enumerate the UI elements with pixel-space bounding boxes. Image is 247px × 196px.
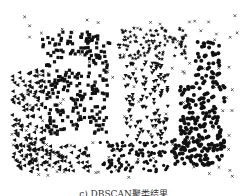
data-point	[118, 56, 122, 60]
data-point	[150, 119, 154, 123]
data-point	[69, 35, 72, 38]
data-point	[145, 96, 149, 100]
data-point	[56, 133, 59, 136]
data-point	[28, 36, 31, 39]
data-point	[138, 53, 142, 57]
data-point	[97, 128, 100, 131]
data-point	[51, 88, 54, 91]
data-point	[207, 45, 211, 49]
data-point	[106, 167, 109, 170]
data-point	[62, 111, 65, 114]
data-point	[103, 55, 106, 58]
series-cluster-top-stars	[116, 26, 188, 61]
data-point	[126, 44, 130, 48]
data-point	[45, 97, 48, 100]
data-point	[159, 142, 162, 145]
data-point	[141, 154, 144, 157]
data-point	[75, 127, 78, 130]
data-point	[102, 44, 105, 47]
data-point	[75, 156, 79, 160]
data-point	[207, 114, 211, 118]
data-point	[102, 123, 105, 126]
data-point	[190, 154, 194, 158]
data-point	[98, 74, 101, 77]
data-point	[210, 142, 214, 146]
data-point	[89, 120, 92, 123]
data-point	[47, 163, 51, 167]
data-point	[10, 78, 14, 82]
data-point	[125, 160, 128, 163]
data-point	[40, 155, 44, 159]
data-point	[180, 157, 184, 161]
data-point	[207, 21, 210, 24]
data-point	[222, 99, 226, 103]
data-point	[33, 137, 37, 141]
data-point	[125, 65, 129, 69]
data-point	[60, 37, 63, 40]
data-point	[102, 119, 105, 122]
data-point	[13, 81, 17, 85]
data-point	[75, 106, 78, 109]
data-point	[66, 115, 69, 118]
data-point	[48, 130, 51, 133]
data-point	[152, 102, 156, 106]
data-point	[211, 161, 215, 165]
data-point	[215, 73, 219, 77]
data-point	[125, 166, 128, 169]
data-point	[19, 154, 23, 158]
data-point	[128, 30, 132, 34]
data-point	[47, 126, 50, 129]
data-point	[217, 59, 221, 63]
data-point	[48, 144, 52, 148]
data-point	[80, 75, 83, 78]
data-point	[71, 169, 75, 173]
data-point	[191, 99, 195, 103]
data-point	[95, 89, 98, 92]
data-point	[203, 157, 207, 161]
data-point	[48, 119, 51, 122]
data-point	[67, 161, 71, 165]
data-point	[202, 163, 206, 167]
scatter-plot	[0, 0, 247, 186]
data-point	[137, 100, 140, 103]
data-point	[93, 117, 96, 120]
data-point	[98, 117, 101, 120]
data-point	[96, 37, 99, 40]
data-point	[49, 116, 52, 119]
data-point	[187, 131, 191, 135]
data-point	[158, 41, 162, 45]
data-point	[86, 41, 89, 44]
data-point	[211, 76, 215, 80]
data-point	[85, 160, 89, 164]
data-point	[63, 171, 66, 174]
data-point	[59, 102, 62, 105]
data-point	[128, 40, 132, 44]
data-point	[105, 66, 108, 69]
data-point	[215, 143, 219, 147]
data-point	[72, 144, 76, 148]
data-point	[68, 40, 71, 43]
data-point	[211, 149, 215, 153]
data-point	[54, 103, 57, 106]
data-point	[101, 61, 104, 64]
data-point	[142, 36, 146, 40]
data-point	[158, 94, 162, 98]
data-point	[125, 122, 129, 126]
data-point	[218, 131, 222, 135]
data-point	[188, 111, 192, 115]
data-point	[210, 95, 214, 99]
data-point	[52, 119, 55, 122]
data-point	[23, 16, 26, 19]
data-point	[69, 164, 73, 168]
data-point	[35, 163, 39, 167]
data-point	[135, 67, 138, 70]
data-point	[71, 110, 74, 113]
data-point	[221, 109, 224, 112]
data-point	[197, 143, 201, 147]
data-point	[207, 65, 211, 69]
data-point	[111, 144, 114, 147]
data-point	[165, 141, 168, 144]
data-point	[211, 51, 215, 55]
data-point	[103, 50, 106, 53]
data-point	[210, 70, 214, 74]
